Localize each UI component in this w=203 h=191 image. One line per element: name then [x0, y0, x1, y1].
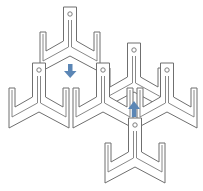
- trident-piece-top: [40, 7, 100, 72]
- diagram-svg: [0, 0, 203, 191]
- assembly-diagram: [0, 0, 203, 191]
- trident-piece-bottom: [105, 118, 165, 183]
- arrow-down-icon: [64, 64, 77, 78]
- trident-piece-left: [9, 63, 69, 128]
- trident-piece-middle-top: [104, 43, 164, 108]
